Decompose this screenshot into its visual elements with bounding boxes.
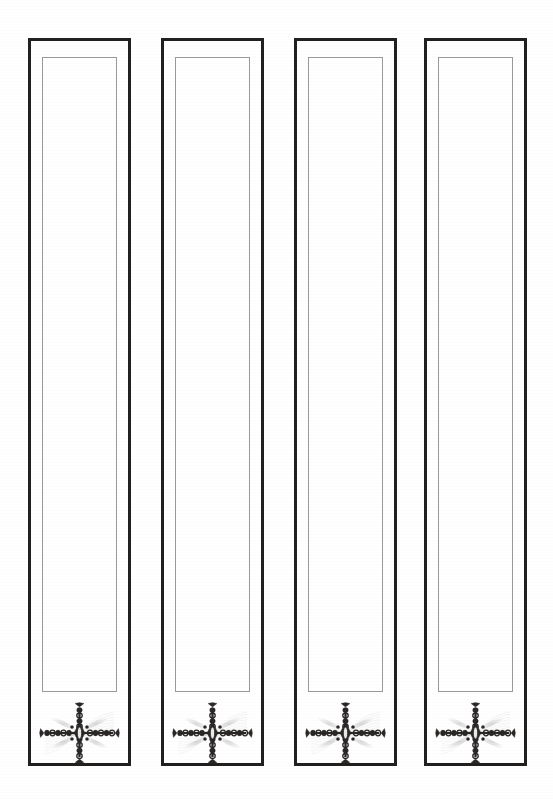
page-canvas [0, 0, 553, 799]
panel-inner-rule [308, 57, 383, 692]
panel-inner-rule [438, 57, 513, 692]
decorative-panel [294, 38, 397, 766]
decorative-panel [161, 38, 264, 766]
decorative-panel [28, 38, 131, 766]
decorative-panel [424, 38, 527, 766]
plate-illustration [0, 0, 553, 799]
panel-inner-rule [175, 57, 250, 692]
panel-inner-rule [42, 57, 117, 692]
